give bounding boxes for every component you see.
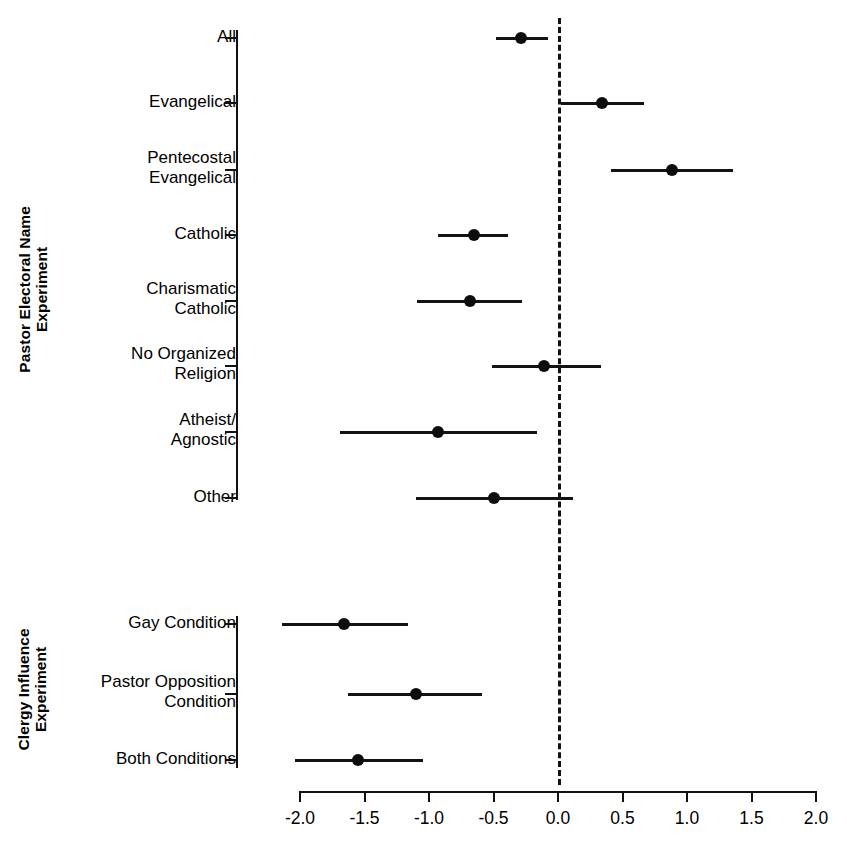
x-axis-tick [751,791,753,802]
group-label-text: Clergy Influence Experiment [15,610,50,770]
y-axis-spine [236,30,238,500]
y-axis-tick [225,623,236,625]
y-axis-tick [225,169,236,171]
y-label-pentecostal-evangelical: Pentecostal Evangelical [147,148,236,187]
x-axis-tick [686,791,688,802]
point-estimate-marker [468,229,480,241]
point-estimate-marker [596,97,608,109]
point-estimate-marker [538,360,550,372]
point-estimate-marker [410,688,422,700]
y-axis-tick [225,693,236,695]
point-estimate-marker [432,426,444,438]
x-axis-tick [299,791,301,802]
x-axis-tick-label: -1.5 [349,808,379,829]
y-axis-tick [225,234,236,236]
y-axis-tick [225,365,236,367]
zero-reference-line [558,18,561,785]
x-axis-tick [622,791,624,802]
x-axis-tick-label: 1.5 [739,808,763,829]
group-label-text: Pastor Electoral Name Experiment [16,195,51,385]
y-label-charismatic-catholic: Charismatic Catholic [146,279,236,318]
x-axis-tick-label: -0.5 [478,808,508,829]
y-label-evangelical: Evangelical [149,92,236,112]
x-axis-tick [557,791,559,802]
point-estimate-marker [488,492,500,504]
point-estimate-marker [515,32,527,44]
x-axis-tick [815,791,817,802]
y-label-no-organized-religion: No Organized Religion [131,344,236,383]
x-axis-tick-label: 0.0 [546,808,570,829]
y-axis-tick [225,37,236,39]
y-axis-tick [225,431,236,433]
y-axis-tick [225,102,236,104]
point-estimate-marker [352,754,364,766]
x-axis-tick-label: 0.5 [610,808,634,829]
x-axis-tick [428,791,430,802]
y-label-gay-condition: Gay Condition [128,613,236,633]
x-axis-tick-label: -2.0 [285,808,315,829]
x-axis-tick [493,791,495,802]
point-estimate-marker [464,295,476,307]
point-estimate-marker [666,164,678,176]
group-label-pastor-electoral-name-experiment: Pastor Electoral Name Experiment [0,255,128,324]
x-axis-tick-label: 1.0 [675,808,699,829]
x-axis-tick [364,791,366,802]
y-label-both-conditions: Both Conditions [116,749,236,769]
x-axis-tick-label: 2.0 [804,808,828,829]
coefficient-plot: Pastor Electoral Name Experiment Clergy … [0,0,847,850]
y-axis-spine [236,616,238,768]
group-label-clergy-influence-experiment: Clergy Influence Experiment [0,655,112,724]
y-axis-tick [225,300,236,302]
y-axis-tick [225,759,236,761]
y-label-pastor-opposition-condition: Pastor Opposition Condition [101,672,236,711]
y-label-atheist-agnostic: Atheist/ Agnostic [171,410,236,449]
x-axis-tick-label: -1.0 [414,808,444,829]
y-axis-tick [225,497,236,499]
point-estimate-marker [338,618,350,630]
